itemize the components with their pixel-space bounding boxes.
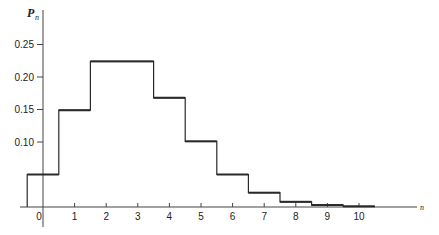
poisson-histogram-chart: 0.100.150.200.25012345678910Pnn xyxy=(0,0,439,235)
x-tick-label: 9 xyxy=(325,211,331,222)
x-tick-label: 8 xyxy=(293,211,299,222)
y-axis-title: P xyxy=(27,6,35,20)
x-tick-label: 10 xyxy=(353,211,365,222)
x-axis-title: n xyxy=(420,203,424,212)
x-tick-label: 3 xyxy=(135,211,141,222)
y-tick-label: 0.25 xyxy=(15,39,35,50)
y-tick-label: 0.20 xyxy=(15,72,35,83)
y-tick-label: 0.10 xyxy=(15,137,35,148)
x-tick-label: 1 xyxy=(72,211,78,222)
histogram-steps xyxy=(27,61,375,207)
axis-labels: 0.100.150.200.25012345678910Pnn xyxy=(15,6,424,222)
y-axis-title-subscript: n xyxy=(35,13,39,22)
histogram-outline xyxy=(27,61,375,207)
x-tick-label: 5 xyxy=(198,211,204,222)
x-tick-label: 0 xyxy=(36,211,42,222)
x-tick-label: 7 xyxy=(261,211,267,222)
axes xyxy=(20,10,417,227)
x-tick-label: 4 xyxy=(167,211,173,222)
x-tick-label: 2 xyxy=(103,211,109,222)
x-tick-label: 6 xyxy=(230,211,236,222)
y-tick-label: 0.15 xyxy=(15,104,35,115)
